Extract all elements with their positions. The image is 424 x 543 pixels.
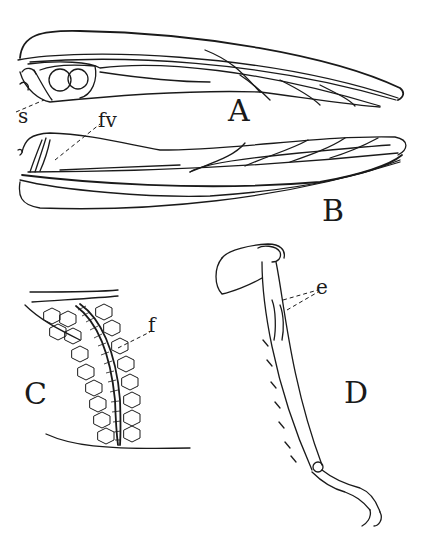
illustration — [0, 0, 424, 543]
annotation-s: s — [18, 106, 28, 126]
panel-label-d: D — [344, 378, 368, 408]
annotation-e: e — [316, 277, 328, 297]
panel-label-b: B — [322, 196, 344, 226]
stridulatory-file-drawing — [25, 290, 190, 448]
panel-label-c: C — [24, 379, 47, 409]
annotation-fv: fv — [98, 110, 117, 130]
wing-b-drawing — [18, 133, 406, 209]
wing-a-drawing — [18, 31, 403, 107]
panel-label-a: A — [228, 96, 250, 126]
annotation-f: f — [148, 315, 155, 335]
